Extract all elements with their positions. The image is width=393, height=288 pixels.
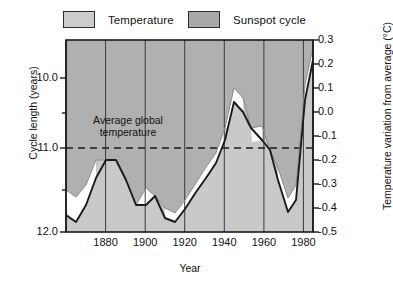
tick-x-5: 1980 xyxy=(273,236,333,248)
axis-right-title: Temperature variation from average (°C) xyxy=(381,1,393,231)
axis-x-title: Year xyxy=(66,262,314,274)
axis-left-title: Cycle length (years) xyxy=(27,33,39,193)
